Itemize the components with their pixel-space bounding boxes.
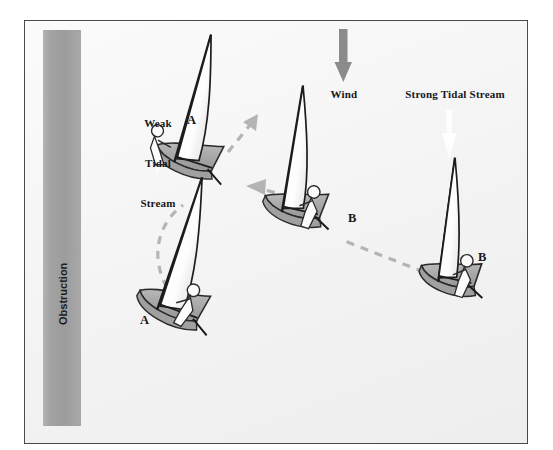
obstruction-bar <box>43 30 81 426</box>
obstruction-label: Obstruction <box>57 273 69 325</box>
boat-label-b-right: B <box>478 250 487 265</box>
diagram-canvas: Obstruction Weak Tidal Stream Wind Stron… <box>0 0 553 450</box>
strong-tidal-stream-arrow-icon <box>442 110 457 160</box>
boat-b-middle <box>261 83 341 230</box>
boat-b-right <box>417 156 492 299</box>
weak-tidal-stream-label-line-3: Stream <box>113 197 203 210</box>
wind-arrow-icon <box>335 29 353 82</box>
boat-label-a-upper: A <box>187 113 196 128</box>
strong-tidal-stream-label: Strong Tidal Stream <box>385 88 525 101</box>
weak-tidal-stream-label-line-2: Tidal <box>113 157 203 170</box>
boat-label-a-lower: A <box>140 313 149 328</box>
wind-label: Wind <box>313 88 375 101</box>
diagram-graphics <box>0 0 553 450</box>
boat-label-b-middle: B <box>348 211 357 226</box>
track-b-right-dashed-path <box>342 240 424 272</box>
track-a-heading-arrow <box>228 114 258 152</box>
